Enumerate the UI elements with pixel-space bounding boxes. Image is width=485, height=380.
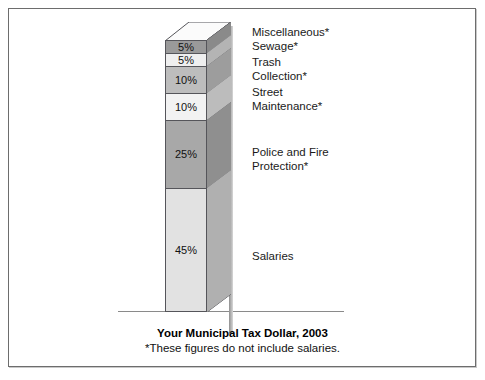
callout-trash-collection: Trash Collection* [252,56,307,83]
stacked-bar-3d: 5% 5% 10% 10% 25% 45% [165,22,231,312]
caption-title: Your Municipal Tax Dollar, 2003 [0,326,485,341]
bar-segment-police-and-fire: 25% [165,120,207,188]
bar-segment-unlabeled-ten: 10% [165,93,207,120]
callout-police-and-fire: Police and Fire Protection* [252,146,329,173]
bar-segment-street-maintenance: 10% [165,66,207,93]
bar-front-stack: 5% 5% 10% 10% 25% 45% [165,40,207,312]
bar-segment-salaries: 45% [165,188,207,312]
segment-value-label: 5% [178,55,194,66]
bar-segment-trash-collection: 5% [165,53,207,66]
segment-value-label: 5% [178,42,194,53]
bar-side-face [207,22,231,312]
callout-street-maintenance: Street Maintenance* [252,86,322,113]
segment-value-label: 25% [175,149,197,160]
chart-caption: Your Municipal Tax Dollar, 2003 *These f… [0,326,485,356]
callout-miscellaneous-sewage: Miscellaneous* Sewage* [252,26,329,53]
segment-value-label: 45% [175,245,197,256]
segment-value-label: 10% [175,102,197,113]
callout-salaries: Salaries [252,250,294,264]
segment-value-label: 10% [175,75,197,86]
figure-root: 5% 5% 10% 10% 25% 45% Miscellaneou [0,0,485,380]
caption-footnote: *These figures do not include salaries. [0,341,485,356]
bar-segment-miscellaneous-sewage: 5% [165,40,207,53]
chart-plot-area: 5% 5% 10% 10% 25% 45% Miscellaneou [0,0,485,380]
